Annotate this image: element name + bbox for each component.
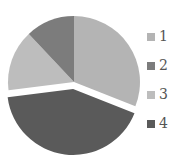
pie-slice-1 [74, 16, 140, 106]
legend-swatch-icon [147, 33, 155, 41]
legend-label: 3 [159, 88, 168, 101]
legend-swatch-icon [147, 120, 155, 128]
legend-label: 2 [159, 59, 168, 72]
legend-item-2: 2 [147, 59, 168, 72]
legend-item-1: 1 [147, 30, 168, 43]
legend-label: 4 [159, 117, 168, 130]
legend-item-4: 4 [147, 117, 168, 130]
legend-item-3: 3 [147, 88, 168, 101]
legend-label: 1 [159, 30, 168, 43]
legend: 1 2 3 4 [147, 30, 168, 146]
pie-slice-4 [8, 89, 135, 155]
legend-swatch-icon [147, 91, 155, 99]
pie-chart [0, 0, 145, 165]
legend-swatch-icon [147, 62, 155, 70]
